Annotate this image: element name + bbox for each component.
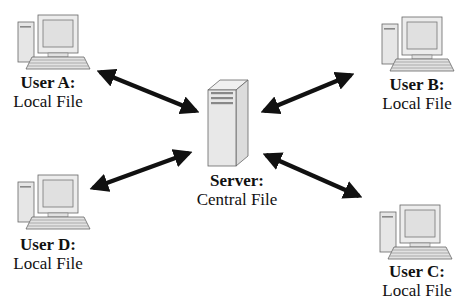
desktop-computer-icon	[382, 17, 454, 71]
user-d-title: User D:	[8, 235, 88, 254]
user-a-label: User A: Local File	[8, 73, 88, 111]
user-a-title: User A:	[8, 73, 88, 92]
user-d-label: User D: Local File	[8, 235, 88, 273]
user-c-title: User C:	[374, 262, 460, 281]
server-title: Server:	[182, 171, 292, 190]
server-tower-icon	[208, 80, 248, 166]
user-a-subtitle: Local File	[8, 92, 88, 111]
user-c-subtitle: Local File	[374, 281, 460, 300]
user-c-label: User C: Local File	[374, 262, 460, 300]
desktop-computer-icon	[380, 205, 452, 259]
desktop-computer-icon	[18, 175, 90, 229]
server-label: Server: Central File	[182, 171, 292, 209]
desktop-computer-icon	[18, 15, 90, 69]
server-subtitle: Central File	[182, 190, 292, 209]
user-b-subtitle: Local File	[374, 94, 460, 113]
arrow-user-d-server	[93, 153, 189, 188]
arrow-user-a-server	[100, 72, 196, 111]
user-d-subtitle: Local File	[8, 254, 88, 273]
user-b-label: User B: Local File	[374, 75, 460, 113]
arrow-user-b-server	[264, 75, 351, 111]
user-b-title: User B:	[374, 75, 460, 94]
